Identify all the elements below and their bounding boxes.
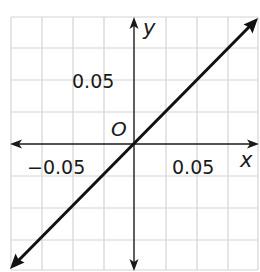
origin-label: O	[111, 119, 127, 139]
x-axis-label: x	[240, 150, 252, 171]
x-tick-label-0.05: 0.05	[172, 158, 214, 177]
y-tick-label-0.05: 0.05	[72, 72, 114, 91]
y-axis-label: y	[143, 18, 155, 39]
coordinate-plane	[0, 0, 260, 272]
x-tick-label-neg-0.05: −0.05	[27, 158, 85, 177]
